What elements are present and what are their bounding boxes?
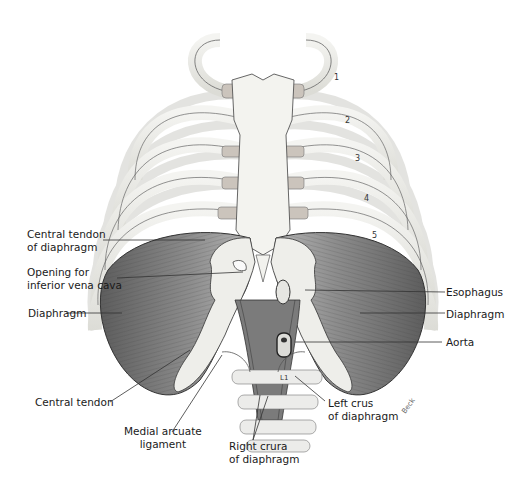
label-left-crus: Left crus of diaphragm [328,397,398,422]
label-central-tendon: Central tendon [35,396,114,409]
label-diaphragm-left: Diaphragm [28,307,86,320]
rib-number-1: 1 [334,73,339,82]
diaphragm-illustration: 1 2 3 4 5 L1 Central tendon of diaphragm… [0,0,526,491]
sternum [232,74,294,255]
vertebra-l1-label: L1 [280,374,288,382]
rib-number-5: 5 [372,231,377,240]
label-right-crura: Right crura of diaphragm [229,440,299,465]
aortic-hiatus [277,333,291,357]
esophageal-hiatus [276,280,290,304]
label-central-tendon-of-diaphragm: Central tendon of diaphragm [27,228,106,253]
label-opening-for-ivc: Opening for inferior vena cava [27,266,122,291]
label-esophagus: Esophagus [446,286,503,299]
rib-number-3: 3 [355,154,360,163]
rib-number-2: 2 [345,116,350,125]
label-medial-arcuate-ligament: Medial arcuate ligament [124,425,202,450]
rib-number-4: 4 [364,194,369,203]
label-aorta: Aorta [446,336,474,349]
label-diaphragm-right: Diaphragm [446,308,504,321]
